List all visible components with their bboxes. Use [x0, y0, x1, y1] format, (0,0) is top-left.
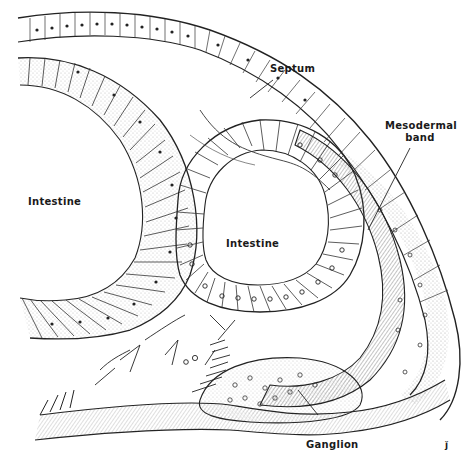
label-mesodermal-line1: Mesodermal — [385, 120, 455, 132]
label-intestine-center: Intestine — [226, 238, 279, 249]
septum-leader — [250, 80, 273, 98]
histology-drawing — [0, 0, 471, 465]
label-ganglion: Ganglion — [306, 439, 358, 450]
label-septum: Septum — [270, 63, 315, 74]
label-mesodermal-line2: band — [385, 132, 455, 144]
label-mesodermal-band: Mesodermal band — [385, 120, 455, 144]
artist-signature: ǰ — [445, 440, 448, 450]
label-intestine-left: Intestine — [28, 196, 81, 207]
